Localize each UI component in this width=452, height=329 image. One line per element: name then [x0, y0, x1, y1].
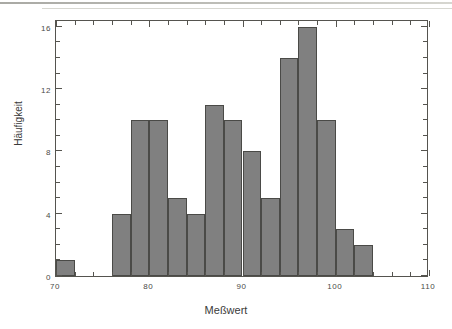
- y-axis-major-tick-right: [421, 150, 427, 151]
- y-axis-minor-tick-right: [423, 228, 427, 229]
- histogram-bar: [280, 58, 299, 276]
- x-axis-tick-label: 80: [143, 282, 153, 291]
- y-axis-major-tick: [56, 26, 62, 27]
- histogram-bar: [168, 198, 187, 276]
- x-axis-minor-tick-top: [205, 21, 206, 25]
- x-axis-minor-tick-top: [187, 21, 188, 25]
- x-axis-minor-tick: [224, 272, 225, 276]
- histogram-bar: [354, 245, 373, 276]
- x-axis-tick-label: 100: [327, 282, 342, 291]
- histogram-bar: [298, 27, 317, 276]
- x-axis-minor-tick: [75, 272, 76, 276]
- x-axis-minor-tick: [93, 272, 94, 276]
- y-axis-major-tick: [56, 275, 62, 276]
- x-axis-major-tick-top: [243, 21, 244, 27]
- y-axis-minor-tick-right: [423, 182, 427, 183]
- x-axis-minor-tick-top: [224, 21, 225, 25]
- histogram-bar: [261, 198, 280, 276]
- y-axis-tick-label: 8: [46, 148, 51, 157]
- x-axis-major-tick: [429, 270, 430, 276]
- x-axis-minor-tick: [261, 272, 262, 276]
- y-axis-minor-tick-right: [423, 41, 427, 42]
- x-axis-minor-tick: [280, 272, 281, 276]
- x-axis-major-tick: [149, 270, 150, 276]
- y-axis-major-tick: [56, 88, 62, 89]
- y-axis-minor-tick: [56, 182, 60, 183]
- x-axis-major-tick-top: [149, 21, 150, 27]
- x-axis-minor-tick: [373, 272, 374, 276]
- x-axis-major-tick-top: [336, 21, 337, 27]
- y-axis-tick-label: 12: [41, 86, 51, 95]
- x-axis-major-tick: [243, 270, 244, 276]
- x-axis-minor-tick: [112, 272, 113, 276]
- x-axis-minor-tick: [354, 272, 355, 276]
- y-axis-minor-tick-right: [423, 119, 427, 120]
- histogram-bar: [187, 214, 206, 276]
- y-axis-title: Häufigkeit: [13, 84, 24, 164]
- y-axis-minor-tick: [56, 197, 60, 198]
- y-axis-minor-tick-right: [423, 104, 427, 105]
- histogram-bar: [336, 229, 355, 276]
- y-axis-major-tick-right: [421, 88, 427, 89]
- x-axis-tick-label: 110: [421, 282, 435, 291]
- y-axis-minor-tick-right: [423, 73, 427, 74]
- x-axis-minor-tick-top: [93, 21, 94, 25]
- histogram-bar: [149, 120, 168, 276]
- y-axis-minor-tick-right: [423, 57, 427, 58]
- x-axis-minor-tick: [187, 272, 188, 276]
- x-axis-tick-label: 90: [237, 282, 247, 291]
- y-axis-minor-tick-right: [423, 166, 427, 167]
- y-axis-minor-tick: [56, 228, 60, 229]
- x-axis-minor-tick-top: [75, 21, 76, 25]
- y-axis-tick-label: 4: [46, 210, 51, 219]
- y-axis-minor-tick: [56, 166, 60, 167]
- y-axis-minor-tick-right: [423, 197, 427, 198]
- x-axis-minor-tick-top: [410, 21, 411, 25]
- y-axis-major-tick: [56, 213, 62, 214]
- x-axis-minor-tick-top: [354, 21, 355, 25]
- x-axis-minor-tick: [392, 272, 393, 276]
- x-axis-major-tick: [336, 270, 337, 276]
- y-axis-minor-tick-right: [423, 259, 427, 260]
- x-axis-minor-tick-top: [261, 21, 262, 25]
- histogram-bar: [112, 214, 131, 276]
- y-axis-minor-tick: [56, 57, 60, 58]
- x-axis-minor-tick-top: [131, 21, 132, 25]
- x-axis-title: Meßwert: [0, 304, 452, 316]
- y-axis-tick-label: 16: [41, 23, 51, 32]
- histogram-bar: [56, 260, 75, 276]
- x-axis-minor-tick: [168, 272, 169, 276]
- y-axis-minor-tick-right: [423, 244, 427, 245]
- y-axis-minor-tick-right: [423, 135, 427, 136]
- x-axis-minor-tick: [205, 272, 206, 276]
- x-axis-minor-tick-top: [317, 21, 318, 25]
- y-axis-minor-tick: [56, 119, 60, 120]
- y-axis-major-tick-right: [421, 275, 427, 276]
- x-axis-minor-tick-top: [298, 21, 299, 25]
- y-axis-minor-tick: [56, 244, 60, 245]
- y-axis-minor-tick: [56, 104, 60, 105]
- x-axis-major-tick-top: [429, 21, 430, 27]
- x-axis-minor-tick: [298, 272, 299, 276]
- y-axis-minor-tick: [56, 41, 60, 42]
- y-axis-minor-tick: [56, 73, 60, 74]
- histogram-bar: [224, 120, 243, 276]
- histogram-bar: [205, 105, 224, 276]
- histogram-figure: 708090100110 0481216 Meßwert Häufigkeit: [0, 0, 452, 329]
- plot-frame: [55, 20, 428, 277]
- y-axis-major-tick-right: [421, 26, 427, 27]
- x-axis-minor-tick: [410, 272, 411, 276]
- plot-area: [56, 21, 427, 276]
- y-axis-tick-label: 0: [46, 273, 51, 282]
- x-axis-minor-tick: [131, 272, 132, 276]
- y-axis-major-tick: [56, 150, 62, 151]
- x-axis-minor-tick-top: [373, 21, 374, 25]
- histogram-bar: [131, 120, 150, 276]
- x-axis-minor-tick-top: [168, 21, 169, 25]
- histogram-bar: [317, 120, 336, 276]
- x-axis-minor-tick-top: [280, 21, 281, 25]
- x-axis-minor-tick-top: [112, 21, 113, 25]
- y-axis-major-tick-right: [421, 213, 427, 214]
- x-axis-tick-label: 70: [50, 282, 60, 291]
- y-axis-minor-tick: [56, 135, 60, 136]
